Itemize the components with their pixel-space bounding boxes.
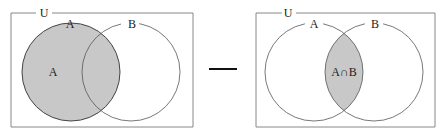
venn-subtraction-figure: U A B A U A B A∩B bbox=[0, 0, 443, 135]
right-set-a-label: A bbox=[310, 17, 319, 31]
right-venn-diagram: U A B A∩B bbox=[256, 6, 435, 127]
left-circle-a bbox=[22, 23, 120, 121]
left-venn-diagram: U A B A bbox=[11, 6, 193, 127]
left-universe-label: U bbox=[40, 6, 49, 20]
left-region-label: A bbox=[49, 65, 58, 79]
right-region-label: A∩B bbox=[331, 65, 356, 79]
left-set-b-label: B bbox=[128, 17, 136, 31]
right-set-b-label: B bbox=[371, 17, 379, 31]
left-set-a-label: A bbox=[66, 17, 75, 31]
right-universe-label: U bbox=[284, 6, 293, 20]
